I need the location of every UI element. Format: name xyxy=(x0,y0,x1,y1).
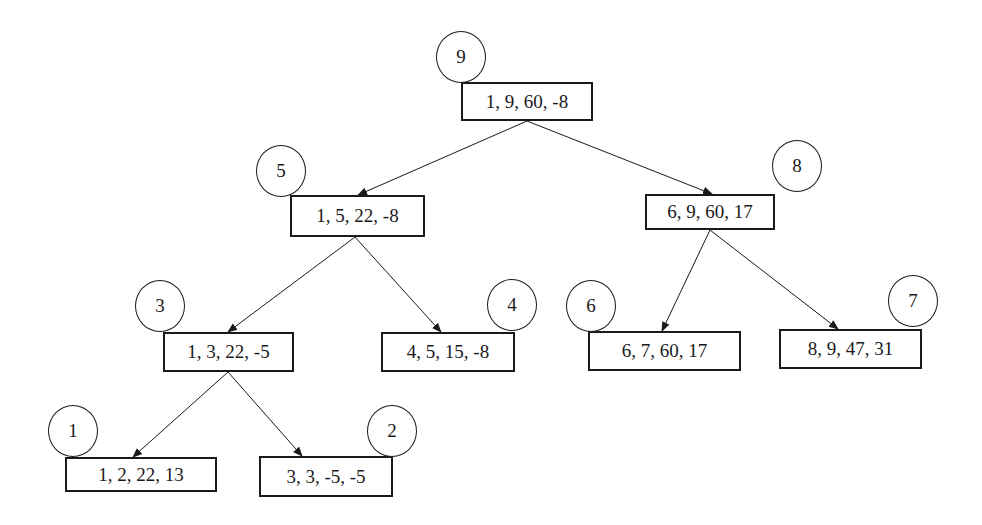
tree-edges xyxy=(0,0,982,525)
node-circle-7: 7 xyxy=(888,275,938,327)
node-box-3: 1, 3, 22, -5 xyxy=(163,332,294,372)
node-label: 9 xyxy=(456,46,466,68)
node-label: 2 xyxy=(387,420,397,442)
node-circle-8: 8 xyxy=(772,140,822,192)
node-label: 6 xyxy=(586,295,596,317)
node-box-4: 4, 5, 15, -8 xyxy=(381,332,515,372)
node-circle-9: 9 xyxy=(436,31,486,83)
edge-arrow-n8-n6 xyxy=(662,230,710,331)
node-box-6: 6, 7, 60, 17 xyxy=(588,331,741,371)
node-values: 1, 3, 22, -5 xyxy=(187,341,269,363)
node-circle-1: 1 xyxy=(48,405,98,457)
edge-arrow-n5-n3 xyxy=(228,237,355,332)
node-box-8: 6, 9, 60, 17 xyxy=(645,194,775,230)
edge-arrow-n8-n7 xyxy=(710,230,838,329)
node-values: 1, 5, 22, -8 xyxy=(316,205,398,227)
node-circle-2: 2 xyxy=(367,405,417,457)
node-values: 4, 5, 15, -8 xyxy=(407,341,489,363)
edge-arrow-n9-n5 xyxy=(358,121,527,195)
node-box-2: 3, 3, -5, -5 xyxy=(259,456,393,497)
node-circle-6: 6 xyxy=(566,280,616,332)
edge-arrow-n3-n1 xyxy=(133,372,228,457)
node-circle-5: 5 xyxy=(256,145,306,197)
edge-arrow-n9-n8 xyxy=(527,121,712,194)
node-box-7: 8, 9, 47, 31 xyxy=(779,329,922,369)
node-label: 7 xyxy=(908,290,918,312)
node-box-9: 1, 9, 60, -8 xyxy=(461,82,593,121)
node-values: 8, 9, 47, 31 xyxy=(808,338,894,360)
edge-arrow-n3-n2 xyxy=(228,372,302,456)
node-label: 1 xyxy=(68,420,78,442)
node-label: 8 xyxy=(792,155,802,177)
node-values: 1, 9, 60, -8 xyxy=(486,91,568,113)
node-values: 6, 9, 60, 17 xyxy=(667,201,753,223)
node-label: 4 xyxy=(507,294,517,316)
node-label: 5 xyxy=(276,160,286,182)
node-label: 3 xyxy=(155,295,165,317)
tree-diagram: 1, 9, 60, -8 9 1, 5, 22, -8 5 6, 9, 60, … xyxy=(0,0,982,525)
node-values: 3, 3, -5, -5 xyxy=(286,466,365,488)
edge-arrow-n5-n4 xyxy=(355,237,441,332)
node-circle-4: 4 xyxy=(487,279,537,331)
node-values: 1, 2, 22, 13 xyxy=(98,464,184,486)
node-box-5: 1, 5, 22, -8 xyxy=(290,195,425,237)
node-values: 6, 7, 60, 17 xyxy=(622,340,708,362)
node-circle-3: 3 xyxy=(135,280,185,332)
node-box-1: 1, 2, 22, 13 xyxy=(65,457,217,492)
